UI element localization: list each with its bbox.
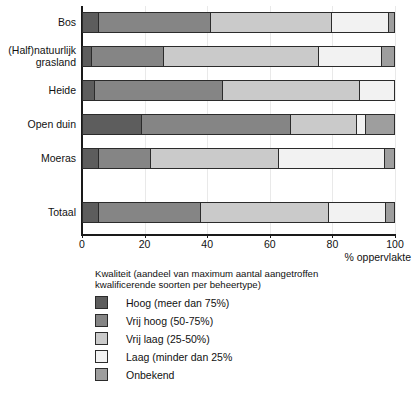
legend-swatch	[95, 296, 108, 309]
legend-item: Laag (minder dan 25%	[95, 348, 395, 365]
x-tick-label: 100	[386, 238, 404, 250]
x-axis-line	[82, 234, 395, 236]
stacked-bar	[82, 114, 395, 135]
bar-segment	[83, 47, 92, 66]
gridline	[395, 6, 396, 234]
bar-segment	[83, 149, 99, 168]
bar-segment	[92, 47, 164, 66]
bar-segment	[142, 115, 291, 134]
category-label: Moeras	[0, 153, 76, 165]
bar-segment	[95, 81, 223, 100]
legend-swatch	[95, 368, 108, 381]
bar-segment	[382, 47, 394, 66]
legend-swatch	[95, 332, 108, 345]
legend-label: Onbekend	[126, 369, 174, 381]
bar-segment	[360, 81, 394, 100]
legend-item: Onbekend	[95, 366, 395, 383]
x-axis-title: % oppervlakte	[344, 251, 411, 263]
bar-segment	[389, 13, 394, 32]
bar-segment	[83, 203, 99, 222]
bar-segment	[386, 203, 394, 222]
category-label: (Half)natuurlijk grasland	[0, 45, 76, 68]
legend-label: Vrij hoog (50-75%)	[126, 315, 213, 327]
category-label: Bos	[0, 17, 76, 29]
bar-segment	[332, 13, 390, 32]
bar-segment	[201, 203, 329, 222]
legend-label: Vrij laag (25-50%)	[126, 333, 210, 345]
bar-segment	[366, 115, 394, 134]
category-label: Totaal	[0, 207, 76, 219]
x-tick-label: 40	[201, 238, 213, 250]
bar-segment	[211, 13, 332, 32]
bar-segment	[83, 115, 142, 134]
legend-label: Hoog (meer dan 75%)	[126, 297, 229, 309]
stacked-bar	[82, 202, 395, 223]
legend: Kwaliteit (aandeel van maximum aantal aa…	[95, 268, 395, 384]
category-label: Open duin	[0, 119, 76, 131]
bar-segment	[83, 13, 99, 32]
legend-swatch	[95, 350, 108, 363]
legend-items: Hoog (meer dan 75%)Vrij hoog (50-75%)Vri…	[95, 294, 395, 383]
legend-item: Hoog (meer dan 75%)	[95, 294, 395, 311]
category-label: Heide	[0, 85, 76, 97]
bar-segment	[319, 47, 381, 66]
x-tick-label: 80	[327, 238, 339, 250]
x-tick-label: 60	[264, 238, 276, 250]
bar-segment	[99, 13, 211, 32]
chart-container: Bos(Half)natuurlijk graslandHeideOpen du…	[0, 0, 419, 262]
plot-area	[82, 6, 395, 234]
legend-item: Vrij laag (25-50%)	[95, 330, 395, 347]
bar-segment	[279, 149, 385, 168]
legend-item: Vrij hoog (50-75%)	[95, 312, 395, 329]
bar-segment	[99, 203, 202, 222]
bar-segment	[164, 47, 320, 66]
stacked-bar	[82, 80, 395, 101]
stacked-bar	[82, 46, 395, 67]
bar-segment	[99, 149, 152, 168]
bar-segment	[329, 203, 387, 222]
bar-segment	[291, 115, 356, 134]
legend-swatch	[95, 314, 108, 327]
x-tick-label: 20	[139, 238, 151, 250]
legend-title: Kwaliteit (aandeel van maximum aantal aa…	[95, 268, 395, 290]
legend-label: Laag (minder dan 25%	[126, 351, 232, 363]
x-tick-label: 0	[79, 238, 85, 250]
bar-segment	[223, 81, 360, 100]
bar-segment	[151, 149, 279, 168]
stacked-bar	[82, 148, 395, 169]
bar-segment	[357, 115, 366, 134]
bar-segment	[83, 81, 95, 100]
stacked-bar	[82, 12, 395, 33]
bar-segment	[385, 149, 394, 168]
figure-caption	[10, 398, 419, 404]
